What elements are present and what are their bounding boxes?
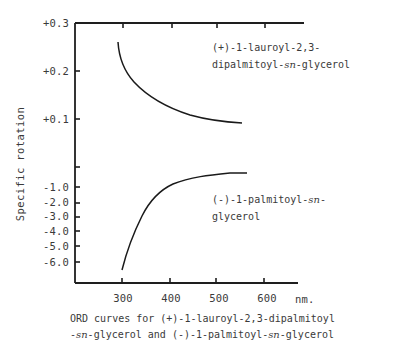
x-axis-unit: nm. [295, 293, 315, 305]
ord-chart: +0.3 +0.2 +0.1 -1.0 -2.0 -3.0 -4.0 -5.0 … [0, 0, 397, 360]
x-tick-label: 400 [161, 292, 181, 304]
y-axis-title: Specific rotation [14, 107, 26, 221]
y-tick-label: +0.2 [43, 65, 69, 77]
x-tick-label: 300 [113, 292, 133, 304]
svg-text:(-)-1-palmitoyl-sn-: (-)-1-palmitoyl-sn- [212, 194, 326, 205]
y-tick-label: -1.0 [43, 181, 69, 193]
caption-line-1: ORD curves for (+)-1-lauroyl-2,3-dipalmi… [70, 311, 335, 327]
figure-caption: ORD curves for (+)-1-lauroyl-2,3-dipalmi… [70, 311, 335, 343]
y-tick-label: -4.0 [43, 225, 69, 237]
svg-text:(+)-1-lauroyl-2,3-: (+)-1-lauroyl-2,3- [212, 42, 320, 53]
caption-line-2: -sn-glycerol and (-)-1-palmitoyl-sn-glyc… [70, 327, 335, 343]
y-tick-label: -3.0 [43, 210, 69, 222]
y-tick-label: -5.0 [43, 240, 69, 252]
y-tick-label: -6.0 [43, 256, 69, 268]
y-tick-labels: +0.3 +0.2 +0.1 -1.0 -2.0 -3.0 -4.0 -5.0 … [43, 17, 69, 268]
x-tick-label: 600 [257, 292, 277, 304]
svg-text:dipalmitoyl-sn-glycerol: dipalmitoyl-sn-glycerol [212, 59, 350, 70]
x-tick-label: 500 [209, 292, 229, 304]
y-tick-label: -2.0 [43, 196, 69, 208]
x-tick-labels: 300 400 500 600 [113, 292, 277, 304]
y-tick-label: +0.3 [43, 17, 69, 29]
svg-text:glycerol: glycerol [212, 211, 260, 222]
series-label-palmitoyl: (-)-1-palmitoyl-sn- glycerol [212, 194, 326, 222]
series-label-lauroyl: (+)-1-lauroyl-2,3- dipalmitoyl-sn-glycer… [212, 42, 350, 70]
curve-lauroyl-dipalmitoyl [118, 42, 242, 123]
y-tick-label: +0.1 [43, 113, 69, 125]
